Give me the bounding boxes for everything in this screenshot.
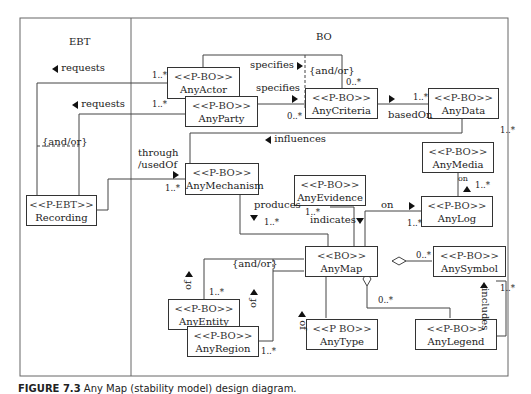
class-name: AnyActor [168,83,239,96]
label-on-log: on [381,199,415,211]
arrow-left-icon [52,65,58,73]
label-text: includes [480,288,491,330]
class-any-map[interactable]: <<BO>> AnyMap [305,246,378,277]
mult-criteria-top: 0..* [346,77,361,87]
label-includes: includes [479,282,491,330]
mult-media-log: 1..* [475,180,490,190]
label-text: specifies [250,59,294,70]
mult-produces: 1..* [264,217,279,227]
label-text: requests [81,98,125,109]
stereotype: <<P-BO>> [295,178,365,191]
class-any-actor[interactable]: <<P-BO>> AnyActor [167,67,240,99]
label-text: of [298,320,309,330]
class-name: AnyMechanism [186,179,258,192]
stereotype: <<P-BO>> [186,166,258,179]
mult-symbol-legend: 1..* [500,283,515,293]
label-through: through [138,147,179,159]
label-and-or-criteria: {and/or} [309,65,355,77]
stereotype: <<P-BO>> [168,70,239,83]
arrow-right-icon [297,62,303,70]
class-name: AnyLegend [416,335,496,348]
class-name: AnyType [307,335,377,348]
mult-data-influences: 1..* [500,125,515,135]
label-requests-actor: requests [52,62,105,74]
class-any-mechanism[interactable]: <<P-BO>> AnyMechanism [185,163,259,195]
mult-data-basedon: 1..* [413,92,428,102]
stereotype: <<P-BO>> [434,249,505,262]
class-name: AnyMedia [423,158,493,171]
mult-log-on: 1..* [407,218,422,228]
arrow-right-icon [389,92,395,104]
class-name: AnyLog [422,212,492,225]
class-name: AnySymbol [434,262,505,275]
class-any-evidence[interactable]: <<P-BO>> AnyEvidence [294,175,366,206]
mult-criteria-left: 0..* [287,111,302,121]
stereotype: <<P-BO>> [186,99,257,112]
arrow-up-icon [463,182,471,194]
class-any-region[interactable]: <<P-BO>> AnyRegion [187,326,259,357]
arrow-left-icon [72,101,78,109]
label-and-or-ebt: {and/or} [42,136,88,148]
stereotype: <<P BO>> [307,322,377,335]
class-any-data[interactable]: <<P-BO>> AnyData [428,88,499,119]
stereotype: <<P-BO>> [306,91,377,104]
stereotype: <<P-BO>> [422,199,492,212]
stereotype: <<P-BO>> [429,91,498,104]
class-name: AnyRegion [188,342,258,355]
class-any-media[interactable]: <<P-BO>> AnyMedia [422,142,494,173]
stereotype: <<P-EBT>> [27,198,96,211]
arrow-icon [250,289,258,295]
class-any-criteria[interactable]: <<P-BO>> AnyCriteria [305,88,378,119]
label-and-or-map: {and/or} [232,258,278,270]
mult-actor-requests: 1..* [152,70,167,80]
arrow-down-icon [250,211,258,223]
mult-legend-map: 0..* [378,295,393,305]
region-title-bo: BO [316,31,332,42]
caption-text: Any Map (stability model) design diagram… [84,383,297,394]
class-name: Recording [27,211,96,224]
class-any-party[interactable]: <<P-BO>> AnyParty [185,96,258,127]
label-of-type: of [297,311,309,330]
label-specifies-1: specifies [250,59,303,71]
class-recording[interactable]: <<P-EBT>> Recording [26,195,97,226]
arrow-right-icon [409,202,415,210]
class-name: AnyCriteria [306,104,377,117]
label-produces: produces [254,199,301,211]
arrow-right-icon [173,168,179,180]
label-text: of [247,298,258,308]
figure-label: FIGURE 7.3 [18,383,81,394]
label-text: of [182,280,193,290]
class-name: AnyData [429,104,498,117]
label-influences: influences [265,133,326,145]
mult-entity: 1..* [209,287,224,297]
figure-caption: FIGURE 7.3 Any Map (stability model) des… [18,383,297,394]
class-any-symbol[interactable]: <<P-BO>> AnySymbol [433,246,506,277]
label-text: requests [61,62,105,73]
mult-symbol-map: 0..* [416,250,431,260]
arrow-right-icon [292,92,298,104]
class-name: AnyParty [186,112,257,125]
label-text: on [381,199,393,210]
class-any-type[interactable]: <<P BO>> AnyType [306,319,378,350]
arrow-icon [299,311,307,317]
stereotype: <<P-BO>> [188,329,258,342]
label-requests-party: requests [72,98,125,110]
arrow-down-icon [356,218,364,224]
stereotype: <<P-BO>> [169,302,239,315]
stereotype: <<P-BO>> [423,145,493,158]
label-text: influences [274,133,326,144]
region-title-ebt: EBT [69,36,90,47]
mult-party-requests: 1..* [152,99,167,109]
class-any-log[interactable]: <<P-BO>> AnyLog [421,196,493,227]
class-name: AnyMap [306,262,377,275]
label-based-on: basedOn [388,109,432,121]
class-name: AnyEvidence [295,191,365,204]
arrow-icon [185,271,193,277]
arrow-left-icon [265,136,271,144]
stereotype: <<BO>> [306,249,377,262]
label-usedof: /usedOf [138,159,177,171]
mult-mechanism-through: 1..* [165,183,180,193]
label-of-entity: of [182,271,194,290]
label-of-region: of [247,289,259,308]
